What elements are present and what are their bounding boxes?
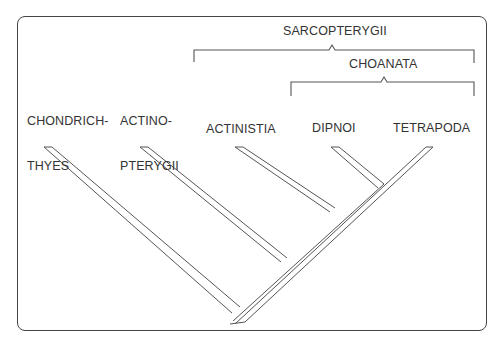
- trunk-right: [230, 147, 433, 324]
- taxon-label-tetrapoda: TETRAPODA: [393, 91, 470, 151]
- taxon-label-chondrichthyes: CHONDRICH- THYES: [27, 84, 109, 189]
- branch-actinistia: [235, 147, 335, 212]
- clade-label-sarcopterygii: SARCOPTERYGII: [283, 24, 387, 39]
- taxon-label-actinopterygii: ACTINO- PTERYGII: [120, 84, 179, 189]
- sarcopterygii-bracket: [194, 45, 474, 63]
- trunk-left: [233, 184, 384, 321]
- label-line: DIPNOI: [312, 121, 356, 136]
- clade-label-choanata: CHOANATA: [349, 57, 417, 72]
- label-line: ACTINISTIA: [206, 122, 276, 137]
- label-line: THYES: [27, 159, 109, 174]
- label-line: ACTINO-: [120, 114, 179, 129]
- label-line: CHONDRICH-: [27, 114, 109, 129]
- taxon-label-actinistia: ACTINISTIA: [206, 92, 276, 152]
- label-line: TETRAPODA: [393, 121, 470, 136]
- label-line: PTERYGII: [120, 159, 179, 174]
- taxon-label-dipnoi: DIPNOI: [312, 91, 356, 151]
- branch-dipnoi: [331, 147, 384, 188]
